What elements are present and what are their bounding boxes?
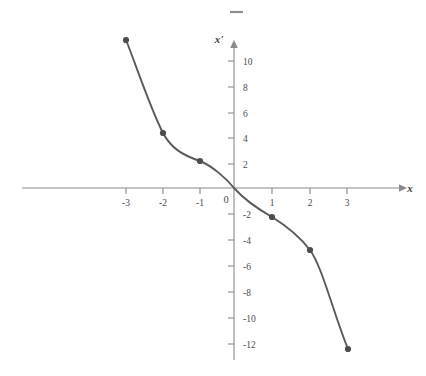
y-tick-label-2: 2 — [243, 160, 248, 170]
x-axis — [22, 184, 407, 192]
x-tick-label-3: 3 — [345, 198, 350, 208]
x-tick-label-1: 1 — [270, 198, 275, 208]
origin-label: 0 — [223, 194, 228, 205]
chart-plot: -3 -2 -1 1 2 3 0 10 8 6 4 2 -2 -4 -6 -8 … — [0, 0, 426, 376]
y-tick-label-4: 4 — [243, 134, 248, 144]
x-axis-label: x — [406, 182, 413, 194]
x-tick-label-neg3: -3 — [122, 198, 130, 208]
y-tick-label-neg12: -12 — [243, 340, 256, 350]
data-points — [123, 37, 351, 352]
y-axis-arrow-icon — [230, 40, 238, 48]
figure-container: -3 -2 -1 1 2 3 0 10 8 6 4 2 -2 -4 -6 -8 … — [0, 0, 426, 376]
y-tick-label-neg8: -8 — [243, 288, 251, 298]
data-point — [197, 158, 203, 164]
x-tick-labels: -3 -2 -1 1 2 3 — [122, 198, 350, 208]
data-point — [160, 130, 166, 136]
y-tick-label-neg6: -6 — [243, 262, 251, 272]
x-tick-label-neg2: -2 — [159, 198, 167, 208]
y-tick-label-6: 6 — [243, 109, 248, 119]
x-axis-arrow-icon — [399, 184, 407, 192]
curve-line — [126, 40, 348, 349]
y-axis-label: x' — [214, 33, 224, 45]
y-tick-label-8: 8 — [243, 83, 248, 93]
data-point — [345, 346, 351, 352]
x-tick-label-neg1: -1 — [196, 198, 204, 208]
y-axis — [230, 40, 238, 360]
y-tick-marks — [228, 61, 234, 344]
y-tick-label-neg4: -4 — [243, 236, 251, 246]
x-tick-label-2: 2 — [308, 198, 313, 208]
y-tick-label-neg10: -10 — [243, 314, 256, 324]
y-tick-label-neg2: -2 — [243, 210, 251, 220]
y-tick-label-10: 10 — [243, 57, 253, 67]
data-point — [269, 214, 275, 220]
data-point — [307, 247, 313, 253]
data-point — [123, 37, 129, 43]
